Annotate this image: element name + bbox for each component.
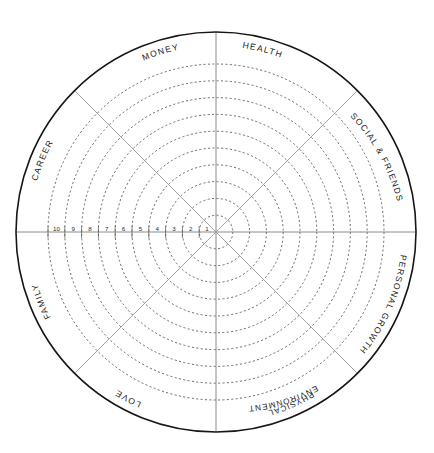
scale-number-5: 5	[139, 225, 143, 232]
scale-number-9: 9	[71, 225, 75, 232]
scale-number-2: 2	[189, 225, 193, 232]
scale-number-3: 3	[172, 225, 176, 232]
scale-number-7: 7	[105, 225, 109, 232]
scale-number-8: 8	[88, 225, 92, 232]
scale-number-6: 6	[122, 225, 126, 232]
scale-number-1: 1	[205, 225, 209, 232]
scale-number-10: 10	[53, 225, 60, 232]
wheel-canvas: 10 9 8 7 6 5 4 3 2 1 HEALTH SOCIAL & FRI…	[0, 0, 434, 453]
wheel-of-life-diagram: 10 9 8 7 6 5 4 3 2 1 HEALTH SOCIAL & FRI…	[0, 0, 434, 453]
spoke-group	[16, 32, 416, 432]
scale-number-4: 4	[155, 225, 159, 232]
